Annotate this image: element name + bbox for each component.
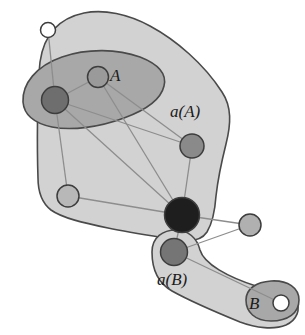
- node-b-closure-dark[interactable]: [161, 239, 188, 266]
- node-a-light[interactable]: [88, 67, 109, 88]
- node-center-black[interactable]: [165, 198, 200, 233]
- label-closure-a: a(A): [170, 102, 201, 121]
- node-top-left-white[interactable]: [41, 23, 56, 38]
- node-bottom-left-light[interactable]: [57, 185, 79, 207]
- label-set-a: A: [109, 66, 121, 85]
- node-mid-right-medium[interactable]: [180, 134, 204, 158]
- node-b-white[interactable]: [273, 295, 289, 311]
- set-closure-diagram: A a(A) a(B) B: [0, 0, 305, 335]
- label-set-b: B: [249, 294, 260, 313]
- node-a-dark[interactable]: [42, 87, 69, 114]
- node-right-isolated[interactable]: [239, 214, 261, 236]
- figure-root: A a(A) a(B) B: [0, 0, 305, 335]
- label-closure-b: a(B): [157, 270, 188, 289]
